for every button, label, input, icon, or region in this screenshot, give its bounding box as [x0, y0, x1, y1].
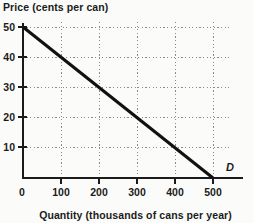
- x-tick-label-200: 200: [85, 186, 113, 198]
- y-tick-label-30: 30: [0, 81, 15, 93]
- y-tick-label-50: 50: [0, 21, 15, 33]
- x-tick-label-500: 500: [199, 186, 227, 198]
- x-tick-label-0: 0: [10, 186, 34, 198]
- y-tick-label-20: 20: [0, 111, 15, 123]
- horizontal-gridlines: [23, 27, 231, 147]
- x-tick-label-400: 400: [161, 186, 189, 198]
- demand-curve-label: D: [226, 161, 234, 173]
- demand-curve-line: [23, 27, 213, 178]
- axis-lines: [22, 23, 243, 178]
- demand-curve-figure: Price (cents per can): [0, 0, 253, 223]
- vertical-gridlines: [61, 22, 213, 177]
- x-tick-label-100: 100: [47, 186, 75, 198]
- y-tick-label-10: 10: [0, 141, 15, 153]
- x-tick-label-300: 300: [123, 186, 151, 198]
- y-tick-label-40: 40: [0, 51, 15, 63]
- x-axis-title: Quantity (thousands of cans per year): [0, 209, 253, 221]
